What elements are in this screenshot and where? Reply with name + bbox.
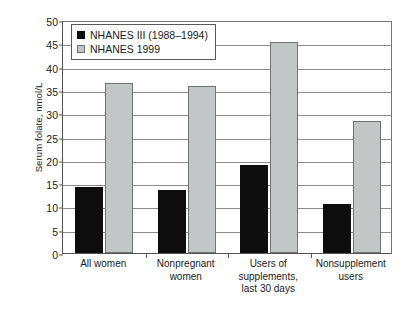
y-tick-label: 35 [46,86,58,98]
legend-item-1: NHANES 1999 [77,42,208,56]
y-tick-label: 10 [46,202,58,214]
bar-series-1-category-0 [105,83,133,253]
y-tick-mark [59,255,63,256]
x-category-label-line: All women [62,258,145,271]
y-tick-label: 25 [46,133,58,145]
legend-label-1: NHANES 1999 [90,43,160,55]
bar-series-1-category-2 [270,42,298,253]
chart-legend: NHANES III (1988–1994) NHANES 1999 [71,24,216,60]
x-category-label-0: All women [62,258,145,271]
x-category-label-line: Users of [227,258,310,271]
y-tick-label: 15 [46,179,58,191]
bar-series-0-category-2 [240,165,268,253]
x-category-label-line: Nonsupplement [310,258,393,271]
series-1-swatch-icon [77,45,85,53]
legend-item-0: NHANES III (1988–1994) [77,28,208,42]
bar-series-1-category-3 [353,121,381,253]
x-axis-category-labels: All womenNonpregnantwomenUsers ofsupplem… [62,258,392,310]
chart-figure: Serum folate, nmol/L 0510152025303540455… [0,0,406,313]
y-tick-label: 45 [46,39,58,51]
series-0-swatch-icon [77,31,85,39]
x-category-label-3: Nonsupplementusers [310,258,393,283]
bar-series-0-category-3 [323,204,351,253]
x-category-label-1: Nonpregnantwomen [145,258,228,283]
x-category-label-line: users [310,271,393,284]
bar-series-0-category-1 [158,190,186,253]
legend-label-0: NHANES III (1988–1994) [90,29,208,41]
y-tick-label: 50 [46,16,58,28]
bar-series-1-category-1 [188,86,216,253]
x-category-label-line: women [145,271,228,284]
x-category-label-2: Users ofsupplements,last 30 days [227,258,310,296]
y-axis-title: Serum folate, nmol/L [33,28,44,228]
y-tick-label: 0 [52,249,58,261]
x-category-label-line: last 30 days [227,283,310,296]
bar-series-0-category-0 [75,187,103,253]
y-tick-label: 30 [46,109,58,121]
y-tick-label: 40 [46,63,58,75]
y-tick-label: 20 [46,156,58,168]
x-category-label-line: Nonpregnant [145,258,228,271]
y-tick-label: 5 [52,226,58,238]
x-category-label-line: supplements, [227,271,310,284]
